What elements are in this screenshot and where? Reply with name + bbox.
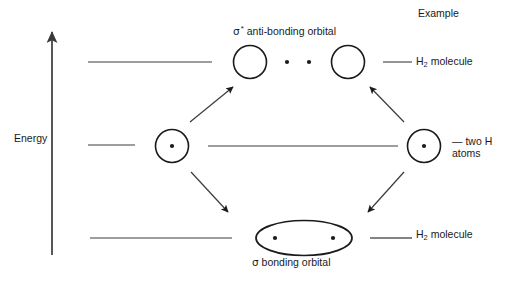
arrow-down-right xyxy=(368,172,404,212)
h2-label-top-rest: molecule xyxy=(428,55,473,67)
bonding-orbital-sketch xyxy=(256,221,352,256)
arrow-up-right xyxy=(370,87,404,122)
sigma-symbol-bonding: σ xyxy=(252,256,259,268)
mo-diagram-canvas: Example σ* anti-bonding orbital σ bondin… xyxy=(0,0,505,285)
antibonding-orbital-label-text: anti-bonding orbital xyxy=(244,25,336,37)
arrow-down-left xyxy=(191,172,228,212)
example-label: Example xyxy=(418,7,459,19)
hydrogen-atom-left-sketch xyxy=(156,130,189,163)
two-h-atoms-line1: — two H xyxy=(452,135,492,147)
h2-molecule-label-top: H2 molecule xyxy=(416,55,473,68)
h2-molecule-label-bottom: H2 molecule xyxy=(416,228,473,241)
two-h-atoms-line2: atoms xyxy=(452,147,492,159)
bonding-orbital-label: σ bonding orbital xyxy=(252,256,330,268)
diagram-graphics xyxy=(0,0,505,285)
sigma-symbol: σ xyxy=(233,25,240,37)
h2-label-top-h: H xyxy=(416,55,424,67)
h2-label-bottom-rest: molecule xyxy=(428,228,473,240)
hydrogen-atom-right-sketch xyxy=(408,130,441,163)
two-h-atoms-label: — two Hatoms xyxy=(452,135,492,159)
antibonding-orbital-label: σ* anti-bonding orbital xyxy=(233,25,336,37)
h2-label-bottom-h: H xyxy=(416,228,424,240)
energy-axis-label: Energy xyxy=(14,132,47,144)
antibonding-orbital-sketch xyxy=(234,46,365,79)
h2-label-top-subscript: 2 xyxy=(424,60,428,69)
arrow-up-left xyxy=(190,87,233,122)
bonding-orbital-label-text: bonding orbital xyxy=(259,256,331,268)
h2-label-bottom-subscript: 2 xyxy=(424,233,428,242)
